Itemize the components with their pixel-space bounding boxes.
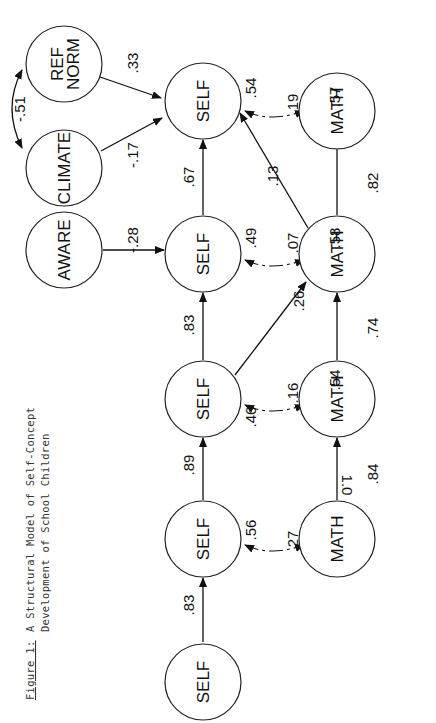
figure-label: Figure 1: — [24, 640, 36, 700]
svg-text:SELF: SELF — [194, 661, 213, 704]
svg-text:AWARE: AWARE — [55, 219, 74, 280]
coef-aware-self4: -.28 — [124, 227, 141, 253]
resid-self-t3: .46 — [242, 407, 259, 428]
svg-text:SELF: SELF — [194, 80, 213, 123]
coef-math4-self5: .13 — [264, 166, 281, 187]
svg-text:NORM: NORM — [64, 38, 83, 90]
resid-math-t4: .58 — [326, 228, 343, 249]
coef-math3-math4: .74 — [364, 318, 381, 339]
svg-text:CLIMATE: CLIMATE — [55, 132, 74, 204]
resid-self-t2: .56 — [242, 520, 259, 541]
node-self-4: SELF — [165, 216, 241, 292]
svg-text:SELF: SELF — [194, 378, 213, 421]
coef-math2-math3: .84 — [364, 464, 381, 485]
corr-t4 — [245, 260, 304, 266]
coef-refnorm-self5: .33 — [124, 53, 141, 74]
caption-line-2: Development of School Children — [39, 433, 51, 632]
node-self-3: SELF — [165, 361, 241, 437]
node-math-2: MATH — [299, 501, 375, 577]
corr-label-t4: .07 — [284, 233, 301, 254]
node-ref-norm: REF NORM — [26, 26, 102, 102]
node-aware: AWARE — [26, 212, 102, 288]
resid-self-t5: .54 — [242, 78, 259, 99]
node-math-4: MATH — [299, 216, 375, 292]
caption-line-1: A Structural Model of Self-Concept — [24, 407, 36, 632]
corr-label-t5: .19 — [284, 94, 301, 115]
coef-climate-refnorm: -.51 — [11, 96, 28, 122]
resid-math-t2: 1.0 — [339, 475, 356, 496]
structural-model-diagram: Figure 1: A Structural Model of Self-Con… — [0, 0, 436, 723]
coef-self3-self4: .83 — [180, 315, 197, 336]
resid-self-t4: .49 — [242, 228, 259, 249]
svg-text:SELF: SELF — [194, 233, 213, 276]
resid-math-t5: .57 — [326, 87, 343, 108]
coef-self4-self5: .67 — [180, 167, 197, 188]
coef-self3-math4: .26 — [290, 291, 307, 312]
node-self-2: SELF — [165, 501, 241, 577]
path-refnorm-self5 — [100, 77, 161, 98]
coef-self1-self2: .83 — [180, 595, 197, 616]
corr-label-t3: .16 — [284, 383, 301, 404]
node-self-5: SELF — [165, 63, 241, 139]
svg-text:MATH: MATH — [328, 516, 347, 563]
coef-math4-math5: .82 — [364, 173, 381, 194]
coef-self2-self3: .89 — [180, 455, 197, 476]
resid-math-t3: .54 — [326, 370, 343, 391]
node-math-5: MATH — [299, 73, 375, 149]
svg-text:SELF: SELF — [194, 518, 213, 561]
corr-label-t2: .27 — [284, 531, 301, 552]
node-climate: CLIMATE — [26, 130, 102, 206]
node-self-1: SELF — [165, 644, 241, 720]
figure-caption: Figure 1: A Structural Model of Self-Con… — [24, 407, 51, 700]
coef-climate-self5: -.17 — [124, 142, 141, 168]
